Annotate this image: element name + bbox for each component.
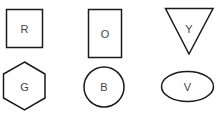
shape-circle-b: B: [84, 67, 124, 107]
shape-ellipse-v: V: [162, 72, 214, 102]
square-label: R: [21, 23, 29, 35]
rectangle-label: O: [101, 28, 110, 40]
circle-label: B: [100, 81, 107, 93]
shapes-diagram: R O Y G B V: [0, 0, 217, 119]
shape-triangle-y: Y: [166, 9, 214, 55]
hexagon-label: G: [20, 81, 29, 93]
shape-rectangle-o: O: [89, 10, 122, 58]
shape-hexagon-g: G: [4, 62, 46, 110]
ellipse-label: V: [184, 81, 192, 93]
shape-square-r: R: [7, 10, 43, 48]
triangle-label: Y: [185, 23, 193, 35]
